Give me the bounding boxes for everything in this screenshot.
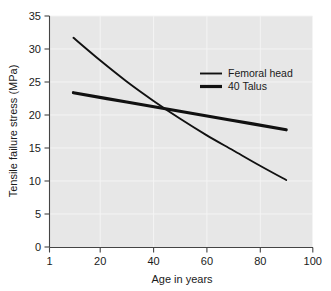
x-axis-ticks bbox=[50, 248, 313, 253]
y-tick-label-20: 20 bbox=[29, 109, 41, 121]
y-axis-ticks bbox=[45, 16, 50, 247]
x-tick-label-80: 80 bbox=[254, 255, 266, 267]
x-tick-label-20: 20 bbox=[94, 255, 106, 267]
x-tick-label-100: 100 bbox=[304, 255, 322, 267]
y-axis-tick-labels: 0 5 10 15 20 25 30 35 bbox=[29, 10, 41, 253]
chart-figure: 0 5 10 15 20 25 30 35 1 20 40 60 80 100 … bbox=[0, 0, 331, 291]
y-tick-label-0: 0 bbox=[35, 241, 41, 253]
line-chart: 0 5 10 15 20 25 30 35 1 20 40 60 80 100 … bbox=[0, 0, 331, 291]
x-tick-label-1: 1 bbox=[46, 255, 52, 267]
legend-label-40-talus: 40 Talus bbox=[228, 80, 267, 92]
y-tick-label-10: 10 bbox=[29, 175, 41, 187]
x-axis-title: Age in years bbox=[151, 273, 213, 285]
x-tick-label-40: 40 bbox=[147, 255, 159, 267]
y-tick-label-25: 25 bbox=[29, 76, 41, 88]
legend-label-femoral-head: Femoral head bbox=[228, 67, 293, 79]
y-tick-label-5: 5 bbox=[35, 208, 41, 220]
y-axis-title: Tensile failure stress (MPa) bbox=[7, 65, 19, 198]
y-tick-label-30: 30 bbox=[29, 43, 41, 55]
y-tick-label-15: 15 bbox=[29, 142, 41, 154]
y-tick-label-35: 35 bbox=[29, 10, 41, 22]
x-axis-tick-labels: 1 20 40 60 80 100 bbox=[46, 255, 322, 267]
x-tick-label-60: 60 bbox=[201, 255, 213, 267]
